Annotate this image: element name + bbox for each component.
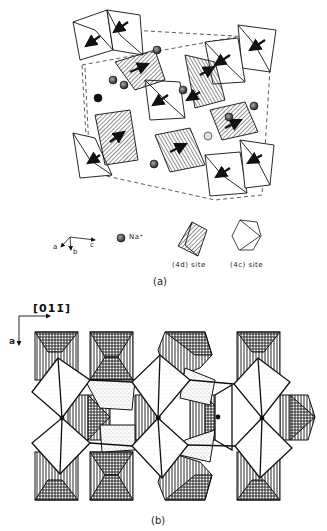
direction-label: [011̄] <box>33 302 71 315</box>
square-pyramids <box>35 332 315 500</box>
panel-b-polyhedral-projection <box>0 0 327 531</box>
panel-b-caption: (b) <box>151 515 165 526</box>
axis-a-label-b: a <box>9 336 15 346</box>
